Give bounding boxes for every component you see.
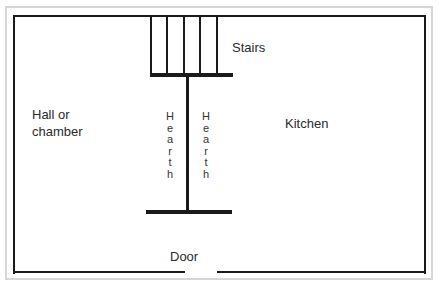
wall-bottom-right xyxy=(217,271,426,273)
wall-top xyxy=(13,15,426,17)
wall-right xyxy=(424,15,426,274)
stair-rail-2 xyxy=(166,16,168,75)
door-label: Door xyxy=(170,249,198,265)
hearth-wall xyxy=(186,76,189,214)
hall-label: Hall or chamber xyxy=(32,106,83,140)
stair-base-bar xyxy=(150,73,233,77)
stair-rail-5 xyxy=(216,16,218,75)
hearth-label-left: Hearth xyxy=(164,111,176,180)
stair-rail-1 xyxy=(150,16,152,75)
wall-bottom-left xyxy=(13,271,185,273)
stairs-label: Stairs xyxy=(232,40,265,56)
wall-left xyxy=(13,15,15,274)
stair-rail-3 xyxy=(183,16,185,75)
kitchen-label: Kitchen xyxy=(285,116,328,132)
hall-label-line2: chamber xyxy=(32,123,83,140)
hearth-label-right: Hearth xyxy=(200,111,212,180)
outer-frame xyxy=(5,6,433,280)
hall-label-line1: Hall or xyxy=(32,106,83,123)
stair-rail-4 xyxy=(199,16,201,75)
hearth-base-bar xyxy=(146,210,232,214)
